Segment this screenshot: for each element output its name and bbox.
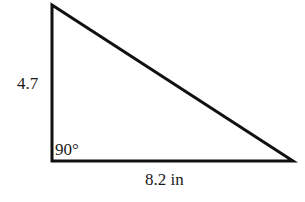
triangle-diagram: 4.7 90° 8.2 in [0, 0, 305, 202]
vertical-leg-label: 4.7 [17, 74, 39, 93]
right-triangle-shape [52, 5, 293, 161]
right-angle-label: 90° [55, 140, 79, 159]
horizontal-leg-label: 8.2 in [145, 170, 184, 189]
